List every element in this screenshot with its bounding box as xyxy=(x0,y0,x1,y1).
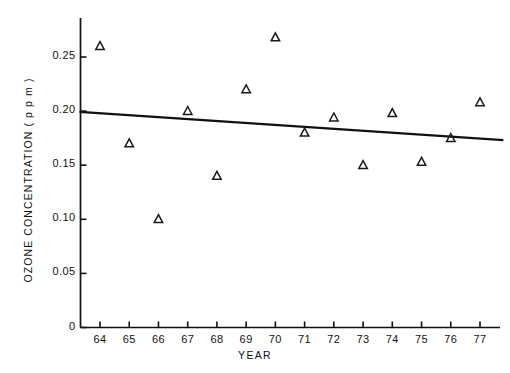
y-axis-title: OZONE CONCENTRATION ( p p m ) xyxy=(22,35,34,325)
trend-line xyxy=(80,112,504,140)
y-tick-label: 0.20 xyxy=(52,103,75,115)
y-tick-label: 0 xyxy=(69,320,76,332)
y-tick-label: 0.25 xyxy=(52,49,75,61)
axes-lines xyxy=(81,18,501,328)
x-tick-label: 77 xyxy=(460,333,500,345)
y-axis-ticks xyxy=(81,57,87,328)
y-tick-label: 0.05 xyxy=(52,265,75,277)
x-axis-title: YEAR xyxy=(0,349,510,361)
ozone-concentration-chart: OZONE CONCENTRATION ( p p m ) YEAR 00.05… xyxy=(0,0,510,373)
y-tick-label: 0.10 xyxy=(52,211,75,223)
x-axis-ticks xyxy=(100,322,480,328)
data-point-markers xyxy=(96,33,484,223)
plot-area xyxy=(0,0,510,373)
y-tick-label: 0.15 xyxy=(52,157,75,169)
